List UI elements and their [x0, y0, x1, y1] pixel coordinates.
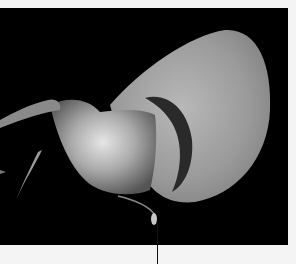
- tendril: [0, 170, 6, 174]
- sepal: [16, 150, 42, 200]
- flower-illustration: [0, 8, 288, 245]
- stem: [0, 99, 60, 128]
- flower-photo: [0, 8, 288, 245]
- leader-line: [157, 222, 158, 264]
- keel-petal: [50, 100, 156, 195]
- filament: [118, 196, 155, 215]
